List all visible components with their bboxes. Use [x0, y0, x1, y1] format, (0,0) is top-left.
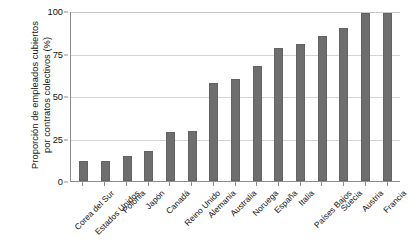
bar [101, 161, 110, 181]
x-label-slot: Reino Unido [181, 187, 203, 241]
y-tick-label-25: 25 [53, 135, 63, 145]
y-tick-mark-75 [64, 54, 68, 55]
bar-slot [181, 12, 203, 181]
x-label-slot: Polonia [115, 187, 137, 241]
bar [361, 13, 370, 181]
x-tick-mark [300, 182, 301, 186]
x-label-slot: Italia [289, 187, 311, 241]
bar [253, 66, 262, 181]
y-tick-label-100: 100 [47, 7, 63, 17]
y-tick-label-50: 50 [53, 92, 63, 102]
y-tick-mark-0 [64, 182, 68, 183]
bar-slot [246, 12, 268, 181]
bar-slot [203, 12, 225, 181]
bar-slot [160, 12, 182, 181]
bar [318, 36, 327, 181]
x-tick-mark [82, 182, 83, 186]
bar-slot [116, 12, 138, 181]
x-label-slot: Corea del Sur [72, 187, 94, 241]
bar-slot [95, 12, 117, 181]
x-label-slot: Países Bajos [311, 187, 333, 241]
bar [209, 83, 218, 181]
bar-slot [268, 12, 290, 181]
bar-slot [290, 12, 312, 181]
x-label-slot: Canadá [159, 187, 181, 241]
bar [296, 44, 305, 181]
x-tick-mark [278, 182, 279, 186]
x-tick-mark [148, 182, 149, 186]
bar-slot [376, 12, 398, 181]
bar [79, 161, 88, 181]
bar [188, 131, 197, 181]
bar [123, 156, 132, 182]
bar [144, 151, 153, 181]
x-label-slot: Estados Unidos [94, 187, 116, 241]
x-axis-category-label: Francia [381, 188, 408, 215]
x-tick-mark [321, 182, 322, 186]
x-tick-mark [387, 182, 388, 186]
y-tick-label-75: 75 [53, 50, 63, 60]
y-tick-mark-25 [64, 139, 68, 140]
y-tick-mark-100 [64, 12, 68, 13]
x-tick-mark [169, 182, 170, 186]
x-tick-mark [235, 182, 236, 186]
bar-slot [355, 12, 377, 181]
x-axis-labels: Corea del SurEstados UnidosPoloniaJapónC… [70, 187, 400, 241]
bar-slot [225, 12, 247, 181]
x-label-slot: Noruega [246, 187, 268, 241]
x-label-slot: Francia [376, 187, 398, 241]
bar [166, 132, 175, 181]
x-label-slot: Alemania [202, 187, 224, 241]
x-tick-mark [191, 182, 192, 186]
bar-slot [311, 12, 333, 181]
x-tick-mark [365, 182, 366, 186]
x-tick-mark [104, 182, 105, 186]
x-tick-mark [256, 182, 257, 186]
bar [274, 48, 283, 181]
plot-area [70, 12, 400, 182]
y-tick-mark-50 [64, 97, 68, 98]
y-axis-title-line-1: Proporción de empleados cubiertos [30, 21, 42, 169]
y-tick-label-0: 0 [58, 177, 63, 187]
x-label-slot: España [268, 187, 290, 241]
x-tick-mark [126, 182, 127, 186]
bar [383, 13, 392, 181]
x-label-slot: Austria [355, 187, 377, 241]
x-label-slot: Australia [224, 187, 246, 241]
bar-slot [73, 12, 95, 181]
bar-slot [333, 12, 355, 181]
x-tick-mark [343, 182, 344, 186]
bar [339, 28, 348, 181]
y-axis-ticks: 0 25 50 75 100 [44, 12, 68, 182]
bar-slot [138, 12, 160, 181]
x-label-slot: Suecia [333, 187, 355, 241]
bars-layer [71, 12, 400, 181]
x-label-slot: Japón [137, 187, 159, 241]
bar [231, 79, 240, 181]
x-tick-mark [213, 182, 214, 186]
